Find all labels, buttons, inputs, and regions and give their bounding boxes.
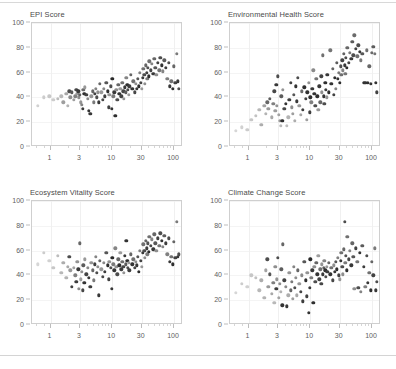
scatter-point [249, 274, 252, 277]
scatter-point [373, 52, 376, 55]
x-tick-mark-minor [93, 146, 94, 148]
x-tick-mark-minor [159, 324, 160, 326]
gridline-horizontal [32, 300, 181, 301]
panel-title: Ecosystem Vitality Score [30, 188, 115, 197]
x-tick-mark-minor [167, 146, 168, 148]
gridline-vertical [112, 23, 113, 145]
scatter-point [315, 77, 318, 80]
scatter-point [111, 77, 114, 80]
scatter-point [300, 274, 303, 277]
x-tick-mark-minor [159, 146, 160, 148]
scatter-point [143, 256, 146, 259]
x-tick-mark-minor [148, 324, 149, 326]
scatter-point [75, 260, 78, 263]
scatter-point [167, 236, 170, 239]
x-tick-mark-minor [291, 146, 292, 148]
scatter-point [287, 116, 290, 119]
scatter-point [81, 289, 84, 292]
x-tick-mark [111, 146, 112, 150]
scatter-point [154, 66, 157, 69]
gridline-vertical [80, 23, 81, 145]
x-tick-mark [309, 146, 310, 150]
scatter-point [294, 85, 297, 88]
x-tick-mark-minor [357, 324, 358, 326]
x-tick-mark [141, 324, 142, 328]
y-tick-label: 80 [16, 43, 24, 50]
y-tick-label: 100 [12, 19, 24, 26]
scatter-point [56, 97, 59, 100]
scatter-point [303, 260, 306, 263]
scatter-point [272, 89, 275, 92]
x-tick-mark-minor [93, 324, 94, 326]
y-tick-mark [224, 71, 228, 72]
x-tick-mark-minor [105, 324, 106, 326]
scatter-point [352, 54, 355, 57]
scatter-point [254, 114, 257, 117]
scatter-point [313, 104, 316, 107]
x-tick-mark-minor [346, 324, 347, 326]
scatter-point [172, 65, 175, 68]
scatter-point [259, 123, 262, 126]
scatter-point [328, 49, 331, 52]
scatter-point [296, 76, 299, 79]
scatter-point [332, 264, 335, 267]
scatter-point [285, 305, 288, 308]
scatter-point [370, 260, 373, 263]
scatter-point [264, 112, 267, 115]
y-tick-mark [26, 324, 30, 325]
x-tick-mark-minor [36, 146, 37, 148]
panel-climate-change-score: Climate Change Score 020406080100 131030… [198, 182, 396, 360]
x-tick-label: 100 [365, 332, 377, 339]
scatter-point [135, 264, 138, 267]
x-tick-mark [50, 146, 51, 150]
x-tick-label: 1 [48, 332, 52, 339]
scatter-point [97, 101, 100, 104]
y-tick-label: 0 [218, 143, 222, 150]
scatter-point [69, 269, 72, 272]
y-tick-mark [26, 22, 30, 23]
y-tick-mark [26, 224, 30, 225]
scatter-point [319, 101, 322, 104]
scatter-point [273, 265, 276, 268]
scatter-point [349, 57, 352, 60]
scatter-point [121, 81, 124, 84]
scatter-point [364, 285, 367, 288]
scatter-point [70, 91, 73, 94]
gridline-horizontal [230, 73, 379, 74]
scatter-point [163, 58, 166, 61]
scatter-point [295, 99, 298, 102]
x-axis-labels: 131030100 [31, 146, 182, 166]
scatter-point [51, 266, 54, 269]
gridline-vertical [340, 23, 341, 145]
scatter-point [169, 255, 172, 258]
y-tick-label: 20 [214, 118, 222, 125]
x-tick-mark [309, 324, 310, 328]
scatter-point [359, 58, 362, 61]
scatter-point [83, 258, 86, 261]
scatter-point [334, 87, 337, 90]
gridline-horizontal [230, 226, 379, 227]
scatter-point [375, 91, 378, 94]
x-tick-label: 1 [246, 332, 250, 339]
gridline-vertical [310, 23, 311, 145]
scatter-point [56, 254, 59, 257]
scatter-point [281, 243, 284, 246]
x-tick-mark-minor [98, 324, 99, 326]
x-tick-mark-minor [170, 146, 171, 148]
scatter-point [161, 245, 164, 248]
scatter-point [265, 258, 268, 261]
y-tick-label: 20 [16, 118, 24, 125]
scatter-point [367, 65, 370, 68]
scatter-point [347, 258, 350, 261]
gridline-horizontal [32, 201, 181, 202]
y-tick-label: 40 [214, 93, 222, 100]
panel-environmental-health-score: Environmental Health Score 020406080100 … [198, 4, 396, 182]
scatter-point [318, 85, 321, 88]
x-tick-mark-minor [98, 146, 99, 148]
gridline-horizontal [32, 122, 181, 123]
scatter-point [153, 57, 156, 60]
x-tick-mark [277, 146, 278, 150]
scatter-point [164, 241, 167, 244]
scatter-point [105, 81, 108, 84]
x-tick-mark-minor [365, 146, 366, 148]
